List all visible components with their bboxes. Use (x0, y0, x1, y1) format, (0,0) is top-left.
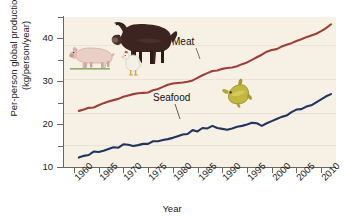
pig-illustration (68, 42, 116, 72)
figure-container: 10203040 1960196519701975198019851990199… (0, 0, 344, 219)
y-axis-tick-label: 30 (29, 75, 53, 86)
y-axis-minor-tick (58, 60, 63, 61)
y-axis-tick-label: 40 (29, 32, 53, 43)
y-axis-tick (57, 124, 63, 125)
y-axis-tick-label: 10 (29, 161, 53, 172)
y-axis-title-line1: Per-person global production (8, 0, 20, 131)
y-axis-minor-tick (58, 146, 63, 147)
y-axis-tick (57, 81, 63, 82)
y-axis-title-line2: (kg/person/year) (19, 0, 31, 131)
y-axis-tick (57, 167, 63, 168)
series-label-seafood: Seafood (153, 92, 190, 103)
chicken-illustration (118, 50, 144, 76)
y-axis-tick-label: 20 (29, 118, 53, 129)
x-axis-title: Year (0, 203, 344, 214)
y-axis-minor-tick (58, 103, 63, 104)
y-axis-minor-tick (58, 17, 63, 18)
y-axis-line (63, 16, 64, 168)
fish-illustration (222, 78, 252, 110)
y-axis-tick (57, 38, 63, 39)
y-axis-title: Per-person global production (kg/person/… (8, 0, 31, 131)
